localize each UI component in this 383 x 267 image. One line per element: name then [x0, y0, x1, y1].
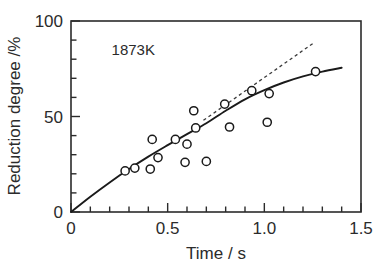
data-point	[181, 158, 189, 166]
data-point	[171, 135, 179, 143]
y-tick-label: 50	[44, 108, 63, 127]
figure-container: 00.51.01.5 050100 1873K Time / s Reducti…	[0, 0, 383, 267]
data-point	[221, 100, 229, 108]
data-point	[263, 118, 271, 126]
x-tick-label: 1.5	[349, 219, 373, 238]
data-point	[311, 68, 319, 76]
reduction-degree-scatter-chart: 00.51.01.5 050100 1873K Time / s Reducti…	[0, 0, 383, 267]
x-tick-label: 1.0	[253, 219, 277, 238]
data-point	[131, 164, 139, 172]
data-point	[202, 157, 210, 165]
data-point	[121, 167, 129, 175]
x-axis-ticks	[71, 203, 361, 212]
data-point	[148, 135, 156, 143]
y-axis-tick-labels: 050100	[35, 12, 63, 222]
data-point-markers	[121, 68, 320, 176]
x-tick-label: 0	[66, 219, 75, 238]
data-point	[265, 89, 273, 97]
y-axis-ticks	[71, 21, 80, 212]
x-tick-label: 0.5	[156, 219, 180, 238]
data-point	[192, 124, 200, 132]
data-point	[154, 153, 162, 161]
temperature-annotation: 1873K	[112, 41, 155, 58]
data-point	[190, 107, 198, 115]
data-point	[183, 140, 191, 148]
y-tick-label: 0	[54, 203, 63, 222]
y-tick-label: 100	[35, 12, 63, 31]
x-axis-title: Time / s	[186, 244, 246, 263]
data-point	[248, 87, 256, 95]
x-axis-tick-labels: 00.51.01.5	[66, 219, 373, 238]
tangent-line	[203, 43, 313, 120]
data-point	[146, 165, 154, 173]
y-axis-title: Reduction degree /%	[5, 37, 24, 196]
fitted-curve	[71, 68, 342, 212]
data-point	[225, 123, 233, 131]
